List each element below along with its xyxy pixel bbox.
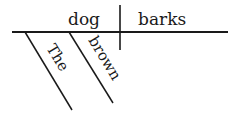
- modifier-word-brown: brown: [85, 33, 125, 84]
- predicate-word: barks: [138, 9, 186, 29]
- modifier-line-the: [25, 32, 72, 110]
- sentence-diagram: dog barks The brown: [0, 0, 235, 118]
- subject-word: dog: [68, 9, 100, 29]
